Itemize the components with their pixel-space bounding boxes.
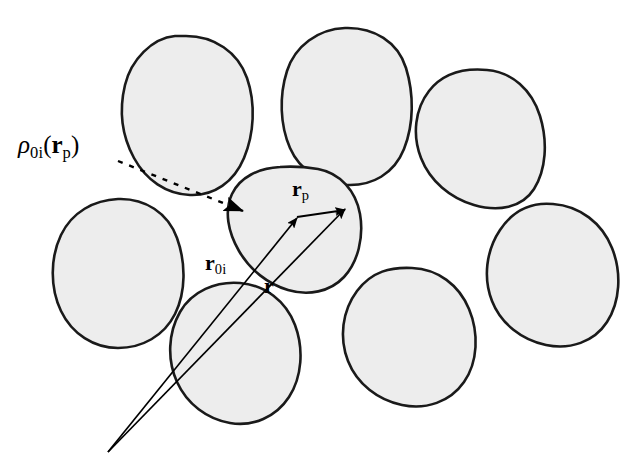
grain-mid-left: [53, 199, 184, 348]
vector-rp-symbol: r: [292, 176, 302, 201]
grain-mid-right: [487, 204, 618, 347]
density-open-paren: (: [43, 131, 51, 158]
figure-canvas: ρ0i(rp) rp r0i r: [0, 0, 640, 474]
grain-top-right: [416, 70, 545, 209]
grain-bottom-left: [170, 283, 300, 424]
density-symbol-subscript: 0i: [30, 143, 43, 162]
grain-bottom-center: [343, 268, 476, 407]
vector-r-label: r: [264, 275, 274, 297]
density-symbol: ρ: [18, 131, 30, 158]
density-argument-symbol: r: [52, 131, 63, 158]
density-label: ρ0i(rp): [18, 132, 79, 161]
grain-top-center: [282, 28, 412, 185]
vector-r0i-symbol: r: [205, 250, 215, 275]
diagram-svg: [0, 0, 640, 474]
vector-r0i-label: r0i: [205, 252, 226, 277]
vector-rp-label: rp: [292, 178, 309, 203]
density-close-paren: ): [71, 131, 79, 158]
vector-r0i-subscript: 0i: [215, 261, 227, 277]
density-argument-subscript: p: [63, 143, 71, 162]
grains-layer: [53, 28, 619, 424]
vector-rp-subscript: p: [302, 187, 309, 203]
vector-r-symbol: r: [264, 273, 274, 298]
